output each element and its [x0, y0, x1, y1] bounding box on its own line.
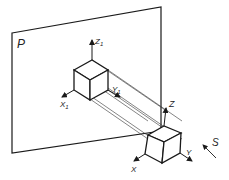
object-cube — [145, 126, 181, 163]
x-axis — [134, 154, 145, 161]
projection-diagram: P Z1 X1 Y1 Z X Y S — [0, 0, 229, 180]
y1-label: Y1 — [112, 85, 121, 95]
y-label: Y — [186, 148, 192, 157]
x-label: X — [130, 165, 137, 174]
z-axis — [164, 108, 166, 126]
s-label: S — [212, 137, 219, 148]
z1-label: Z1 — [94, 37, 103, 47]
projected-cube — [74, 60, 108, 100]
plane-label: P — [17, 37, 25, 51]
x1-axis — [62, 90, 74, 97]
x1-label: X1 — [59, 100, 69, 110]
z-label: Z — [168, 99, 175, 109]
